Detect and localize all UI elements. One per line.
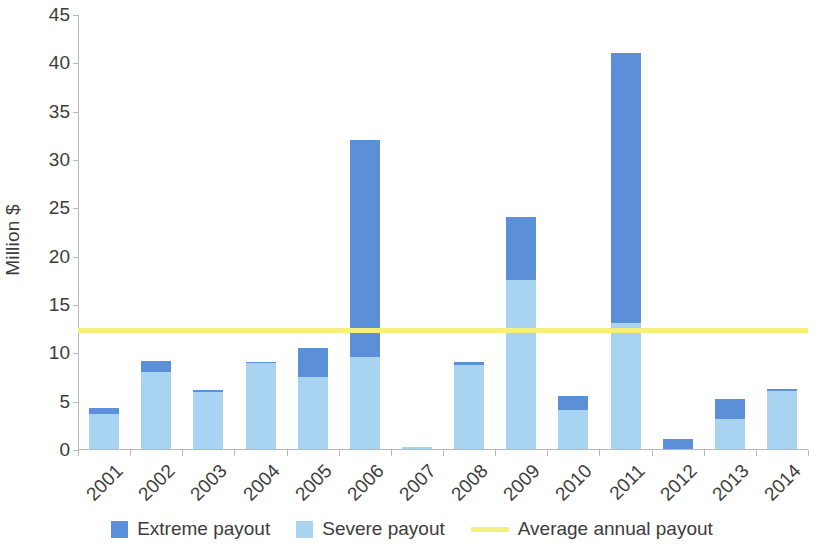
- x-tick-mark: [495, 450, 496, 456]
- x-tick-mark: [287, 450, 288, 456]
- y-tick-label: 40: [0, 52, 70, 74]
- bar-segment-extreme: [454, 362, 484, 365]
- legend-label: Severe payout: [322, 518, 445, 540]
- chart-legend: Extreme payoutSevere payoutAverage annua…: [0, 518, 824, 540]
- y-tick-label: 20: [0, 246, 70, 268]
- legend-label: Average annual payout: [518, 518, 713, 540]
- bar-segment-extreme: [246, 362, 276, 363]
- bar-segment-extreme: [193, 390, 223, 392]
- legend-item-severe-payout[interactable]: Severe payout: [296, 518, 445, 540]
- bar-segment-extreme: [611, 53, 641, 324]
- x-tick-mark: [182, 450, 183, 456]
- x-tick-label-2013: 2013: [694, 460, 753, 519]
- legend-label: Extreme payout: [137, 518, 270, 540]
- y-tick-label: 35: [0, 101, 70, 123]
- bar-2012[interactable]: [663, 439, 693, 449]
- bar-segment-severe: [141, 372, 171, 449]
- x-tick-mark: [808, 450, 809, 456]
- legend-line-icon: [471, 527, 509, 532]
- bar-2005[interactable]: [298, 348, 328, 450]
- bar-segment-severe: [715, 419, 745, 449]
- y-tick-label: 30: [0, 149, 70, 171]
- y-tick-label: 25: [0, 197, 70, 219]
- x-tick-label-2004: 2004: [225, 460, 284, 519]
- x-tick-label-2010: 2010: [538, 460, 597, 519]
- y-tick-label: 10: [0, 342, 70, 364]
- x-tick-mark: [78, 450, 79, 456]
- x-tick-label-2008: 2008: [433, 460, 492, 519]
- bar-segment-severe: [402, 447, 432, 449]
- y-tick-mark: [73, 15, 79, 16]
- x-tick-label-2002: 2002: [120, 460, 179, 519]
- y-tick-mark: [73, 257, 79, 258]
- bar-2004[interactable]: [246, 362, 276, 449]
- x-tick-mark: [443, 450, 444, 456]
- bar-segment-severe: [611, 323, 641, 449]
- bar-segment-extreme: [558, 396, 588, 411]
- x-tick-mark: [234, 450, 235, 456]
- x-tick-mark: [391, 450, 392, 456]
- bar-segment-severe: [454, 365, 484, 449]
- bar-segment-extreme: [715, 399, 745, 419]
- y-tick-mark: [73, 208, 79, 209]
- bar-2013[interactable]: [715, 399, 745, 449]
- y-tick-mark: [73, 112, 79, 113]
- bar-segment-extreme: [350, 140, 380, 358]
- y-tick-label: 0: [0, 439, 70, 461]
- bar-segment-severe: [558, 410, 588, 449]
- bar-segment-severe: [767, 391, 797, 449]
- bar-segment-extreme: [298, 348, 328, 377]
- x-tick-mark: [547, 450, 548, 456]
- legend-item-average-annual-payout[interactable]: Average annual payout: [471, 518, 713, 540]
- bar-2011[interactable]: [611, 53, 641, 449]
- bar-2006[interactable]: [350, 140, 380, 449]
- x-tick-label-2012: 2012: [642, 460, 701, 519]
- bar-segment-extreme: [141, 361, 171, 372]
- average-annual-payout-line: [78, 328, 808, 333]
- x-tick-mark: [652, 450, 653, 456]
- x-tick-label-2005: 2005: [277, 460, 336, 519]
- x-tick-mark: [704, 450, 705, 456]
- bar-2003[interactable]: [193, 390, 223, 449]
- legend-item-extreme-payout[interactable]: Extreme payout: [111, 518, 270, 540]
- bar-2014[interactable]: [767, 389, 797, 449]
- x-tick-mark: [756, 450, 757, 456]
- bar-segment-severe: [298, 377, 328, 450]
- legend-swatch-icon: [296, 521, 313, 538]
- bar-segment-extreme: [767, 389, 797, 391]
- y-tick-mark: [73, 305, 79, 306]
- bar-segment-severe: [89, 414, 119, 449]
- bar-segment-severe: [246, 363, 276, 449]
- y-tick-mark: [73, 160, 79, 161]
- y-axis-line: [78, 15, 79, 451]
- bar-segment-extreme: [506, 217, 536, 280]
- y-tick-label: 15: [0, 294, 70, 316]
- x-tick-label-2007: 2007: [381, 460, 440, 519]
- y-tick-mark: [73, 63, 79, 64]
- bar-2010[interactable]: [558, 396, 588, 449]
- legend-swatch-icon: [111, 521, 128, 538]
- y-tick-mark: [73, 353, 79, 354]
- plot-area: 051015202530354045: [78, 15, 808, 450]
- x-tick-label-2001: 2001: [68, 460, 127, 519]
- x-tick-label-2006: 2006: [329, 460, 388, 519]
- y-tick-label: 45: [0, 4, 70, 26]
- y-tick-mark: [73, 402, 79, 403]
- stacked-bar-chart: Million $ 051015202530354045 20012002200…: [0, 0, 824, 553]
- x-tick-label-2003: 2003: [173, 460, 232, 519]
- bar-2001[interactable]: [89, 408, 119, 449]
- x-tick-mark: [599, 450, 600, 456]
- x-tick-label-2011: 2011: [590, 460, 649, 519]
- y-tick-label: 5: [0, 391, 70, 413]
- bar-segment-severe: [350, 357, 380, 449]
- x-tick-mark: [130, 450, 131, 456]
- bar-2007[interactable]: [402, 447, 432, 449]
- bar-segment-extreme: [663, 439, 693, 449]
- bar-2008[interactable]: [454, 362, 484, 449]
- bar-2002[interactable]: [141, 361, 171, 449]
- bar-segment-extreme: [89, 408, 119, 414]
- x-tick-mark: [339, 450, 340, 456]
- x-tick-label-2014: 2014: [746, 460, 805, 519]
- bar-segment-severe: [506, 280, 536, 449]
- x-tick-label-2009: 2009: [485, 460, 544, 519]
